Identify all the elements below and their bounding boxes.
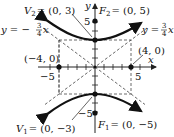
point-f2 bbox=[92, 18, 97, 23]
point-v1 bbox=[92, 91, 97, 96]
origin-point bbox=[93, 65, 96, 68]
label-point-left: (−4, 0) bbox=[24, 53, 59, 64]
y-axis-label: y bbox=[84, 0, 91, 11]
y-tick-label-neg5: −5 bbox=[78, 108, 93, 119]
asymptote-pos-frac-num: 3 bbox=[162, 22, 166, 30]
label-f2: F2= (0, 5) bbox=[98, 5, 150, 18]
label-v1: V1= (0, −3) bbox=[16, 123, 76, 136]
hyperbola-diagram: y x −5 5 5 −5 V2= (0, 3) F2= (0, 5) V1= … bbox=[0, 0, 174, 137]
point-v2 bbox=[92, 37, 97, 42]
asymptote-pos-var: x bbox=[168, 24, 174, 35]
asymptote-pos-frac-den: 4 bbox=[162, 30, 167, 38]
hyperbola-upper-curve bbox=[47, 21, 141, 41]
point-f1 bbox=[92, 110, 97, 115]
label-asymptote-neg: y = − bbox=[0, 24, 30, 35]
x-tick-label-neg5: −5 bbox=[40, 71, 55, 82]
asymptote-neg-frac-den: 4 bbox=[37, 30, 42, 38]
asymptote-neg-var: x bbox=[43, 24, 49, 35]
label-f1: F1= (0, −5) bbox=[97, 119, 157, 132]
label-asymptote-pos: y = bbox=[141, 24, 159, 35]
point-right-vertex-x bbox=[128, 64, 133, 69]
asymptote-neg-frac-num: 3 bbox=[37, 22, 41, 30]
point-left-vertex-x bbox=[56, 64, 61, 69]
label-point-right: (4, 0) bbox=[138, 45, 165, 56]
label-v2: V2= (0, 3) bbox=[24, 5, 75, 18]
pointer-right bbox=[133, 55, 143, 64]
y-tick-label-5: 5 bbox=[84, 16, 90, 27]
x-tick-label-5: 5 bbox=[135, 71, 141, 82]
